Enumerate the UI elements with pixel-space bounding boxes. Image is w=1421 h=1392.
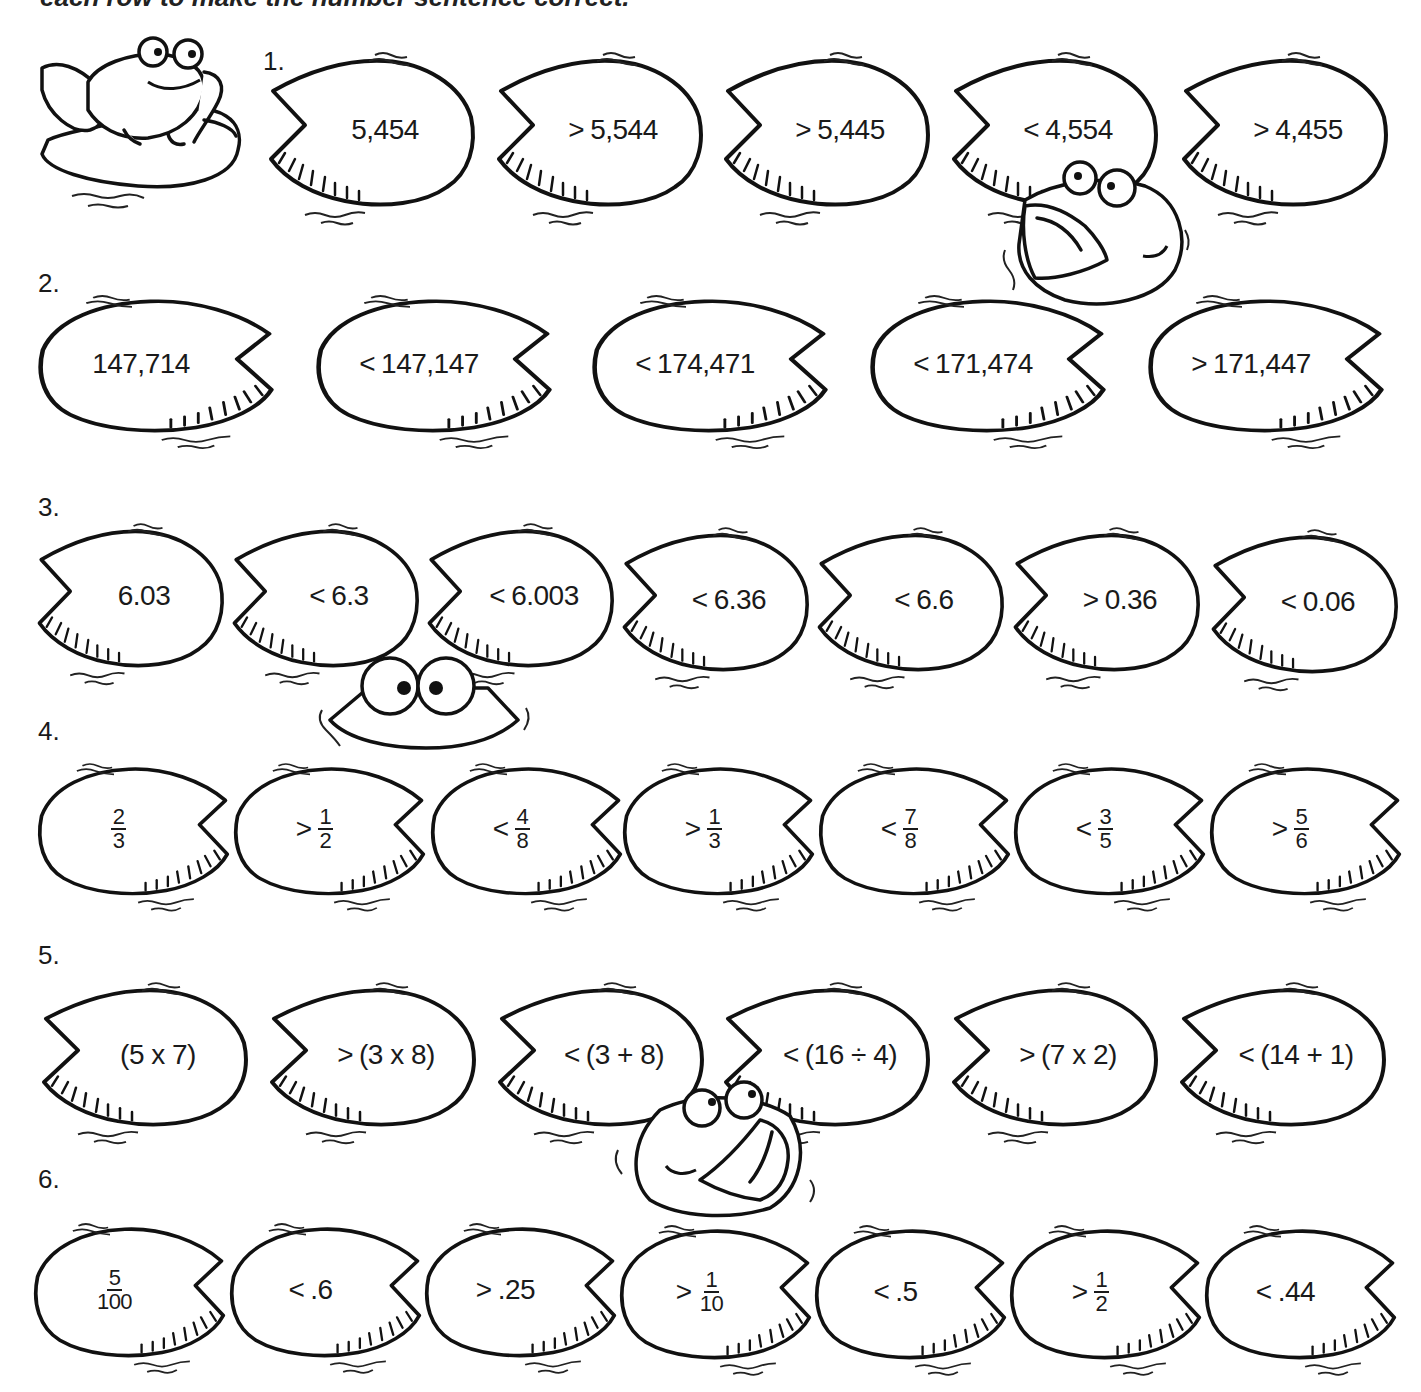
lily-pad[interactable]: (5 x 7) [38, 985, 248, 1125]
pad-operator: < [635, 348, 651, 380]
frog-peeking-eyes-icon [308, 648, 538, 753]
pad-operator: > [1072, 1276, 1088, 1308]
pad-value: (3 + 8) [586, 1039, 664, 1071]
pad-operator: > [1253, 114, 1269, 146]
lily-pad[interactable]: >(3 x 8) [266, 985, 476, 1125]
pad-value: (7 x 2) [1041, 1039, 1117, 1071]
pad-value: 5,544 [590, 114, 658, 146]
pad-value: 5,454 [351, 114, 419, 146]
fraction: 5100 [95, 1267, 134, 1313]
lily-pad[interactable]: 6.03 [34, 526, 224, 666]
pad-operator: > [795, 114, 811, 146]
lily-pad[interactable]: 5100 [32, 1224, 227, 1356]
frog-open-mouth-icon [600, 1070, 830, 1220]
pad-value: 4,455 [1275, 114, 1343, 146]
lily-pad[interactable]: 147,714 [36, 296, 276, 431]
pad-value: 6.03 [118, 580, 171, 612]
lily-pad[interactable]: <48 [429, 764, 624, 894]
lily-pad[interactable]: >171,447 [1146, 296, 1386, 431]
pad-value: .25 [498, 1274, 535, 1306]
lily-pad[interactable]: >12 [1008, 1226, 1203, 1358]
pad-operator: < [359, 348, 375, 380]
pad-operator: < [913, 348, 929, 380]
pad-value: 6.003 [511, 580, 579, 612]
lily-pad[interactable]: <6.3 [229, 526, 419, 666]
pad-operator: < [1076, 813, 1092, 845]
pad-value: (14 + 1) [1260, 1039, 1353, 1071]
pad-operator: > [1272, 813, 1288, 845]
denominator: 10 [698, 1293, 725, 1315]
lily-pad[interactable]: >5,445 [720, 55, 930, 205]
lily-pad[interactable]: <6.36 [619, 530, 809, 670]
pad-operator: < [489, 580, 505, 612]
pad-operator: < [288, 1274, 304, 1306]
denominator: 5 [1098, 830, 1114, 852]
pad-operator: < [309, 580, 325, 612]
pad-value: 0.36 [1105, 584, 1158, 616]
pad-value: .6 [310, 1274, 332, 1306]
lily-pad[interactable]: >(7 x 2) [948, 985, 1158, 1125]
lily-pad[interactable]: >12 [232, 764, 427, 894]
lily-pad[interactable]: <174,471 [590, 296, 830, 431]
fraction: 48 [515, 806, 531, 852]
lily-pad[interactable]: <78 [817, 764, 1012, 894]
pad-value: 0.06 [1303, 586, 1356, 618]
pad-value: 6.36 [714, 584, 767, 616]
denominator: 8 [903, 830, 919, 852]
lily-pad[interactable]: >0.36 [1010, 530, 1200, 670]
lily-pad[interactable]: <147,147 [314, 296, 554, 431]
numerator: 1 [318, 806, 334, 830]
numerator: 1 [704, 1269, 720, 1293]
pad-operator: < [881, 813, 897, 845]
lily-pad[interactable]: >56 [1208, 764, 1403, 894]
lily-pad[interactable]: <(14 + 1) [1176, 985, 1386, 1125]
lily-pad[interactable]: <6.003 [424, 526, 614, 666]
row-5-label: 5. [38, 940, 60, 971]
denominator: 3 [707, 830, 723, 852]
fraction: 78 [903, 806, 919, 852]
pad-operator: < [894, 584, 910, 616]
lily-pad[interactable]: 5,454 [265, 55, 475, 205]
pad-value: .5 [895, 1276, 917, 1308]
pad-operator: < [692, 584, 708, 616]
pad-operator: > [1083, 584, 1099, 616]
frog-open-mouth-icon [995, 160, 1215, 310]
pad-operator: > [676, 1276, 692, 1308]
pad-value: 174,471 [657, 348, 755, 380]
fraction: 110 [698, 1269, 725, 1315]
lily-pad[interactable]: 23 [36, 764, 231, 894]
pad-operator: > [568, 114, 584, 146]
frog-on-lily-pad-icon [28, 30, 253, 210]
lily-pad[interactable]: <.5 [813, 1226, 1008, 1358]
lily-pad[interactable]: >5,544 [493, 55, 703, 205]
pad-value: 5,445 [817, 114, 885, 146]
pad-operator: < [1256, 1276, 1272, 1308]
denominator: 100 [95, 1291, 134, 1313]
lily-pad[interactable]: <35 [1012, 764, 1207, 894]
row-3-label: 3. [38, 492, 60, 523]
lily-pad[interactable]: >.25 [423, 1224, 618, 1356]
pad-operator: > [1019, 1039, 1035, 1071]
denominator: 6 [1294, 830, 1310, 852]
pad-operator: < [783, 1039, 799, 1071]
row-4-label: 4. [38, 716, 60, 747]
pad-value: 147,147 [381, 348, 479, 380]
lily-pad[interactable]: <.44 [1203, 1226, 1398, 1358]
numerator: 7 [903, 806, 919, 830]
denominator: 2 [1094, 1293, 1110, 1315]
pad-operator: > [337, 1039, 353, 1071]
numerator: 2 [111, 806, 127, 830]
pad-value: .44 [1278, 1276, 1315, 1308]
lily-pad[interactable]: >13 [621, 764, 816, 894]
numerator: 5 [107, 1267, 123, 1291]
fraction: 13 [707, 806, 723, 852]
lily-pad[interactable]: <6.6 [814, 530, 1004, 670]
lily-pad[interactable]: <.6 [228, 1224, 423, 1356]
fraction: 12 [1094, 1269, 1110, 1315]
pad-operator: < [1238, 1039, 1254, 1071]
numerator: 1 [1094, 1269, 1110, 1293]
lily-pad[interactable]: >110 [618, 1226, 813, 1358]
pad-operator: < [564, 1039, 580, 1071]
lily-pad[interactable]: <0.06 [1208, 532, 1398, 672]
lily-pad[interactable]: <171,474 [868, 296, 1108, 431]
